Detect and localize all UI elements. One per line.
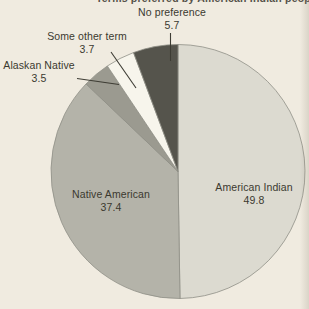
figure: Terms preferred by American Indian peopl… (0, 0, 309, 309)
label-no-preference-value: 5.7 (138, 19, 206, 32)
label-american-indian-value: 49.8 (215, 194, 292, 207)
label-alaskan-native-value: 3.5 (3, 72, 74, 85)
label-native-american-name: Native American (72, 188, 150, 201)
label-some-other-term: Some other term 3.7 (47, 30, 127, 56)
label-american-indian: American Indian 49.8 (215, 181, 292, 207)
label-native-american-value: 37.4 (72, 201, 150, 214)
label-american-indian-name: American Indian (215, 181, 292, 194)
label-no-preference: No preference 5.7 (138, 6, 206, 32)
label-no-preference-name: No preference (138, 6, 206, 19)
label-some-other-term-name: Some other term (47, 30, 127, 43)
pie-slices (51, 45, 305, 299)
slice-american-indian (178, 45, 305, 299)
label-alaskan-native: Alaskan Native 3.5 (3, 59, 74, 85)
label-alaskan-native-name: Alaskan Native (3, 59, 74, 72)
label-native-american: Native American 37.4 (72, 188, 150, 214)
label-some-other-term-value: 3.7 (47, 43, 127, 56)
